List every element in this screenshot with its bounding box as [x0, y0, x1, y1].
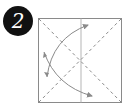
fold-diagram: [0, 0, 124, 105]
